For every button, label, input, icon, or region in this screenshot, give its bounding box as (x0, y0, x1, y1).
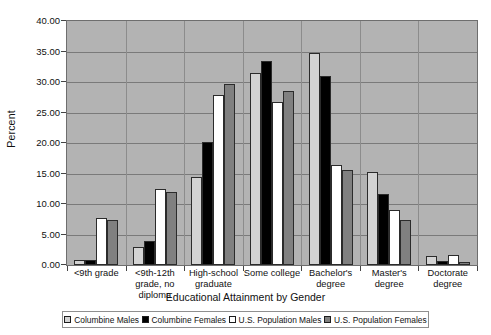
bar (309, 53, 320, 265)
bar (250, 73, 261, 265)
y-axis-tick-label: 25.00 (16, 107, 60, 118)
bar-group (184, 21, 243, 265)
y-axis-tick-mark (61, 234, 66, 235)
bar (426, 256, 437, 265)
legend-swatch-icon (229, 316, 236, 323)
bar-group (418, 21, 477, 265)
y-axis-tick-label: 40.00 (16, 15, 60, 26)
bar (261, 61, 272, 265)
bar (437, 261, 448, 265)
bar (133, 247, 144, 265)
y-axis-tick-mark (61, 142, 66, 143)
bar (272, 102, 283, 265)
y-axis-tick-mark (61, 203, 66, 204)
y-axis-tick-label: 30.00 (16, 76, 60, 87)
legend-item: Columbine Males (64, 315, 139, 325)
bar (378, 194, 389, 265)
legend: Columbine MalesColumbine FemalesU.S. Pop… (62, 311, 429, 328)
legend-label: Columbine Females (152, 315, 226, 325)
y-axis-tick-label: 15.00 (16, 168, 60, 179)
bar (166, 192, 177, 265)
y-axis-title: Percent (5, 94, 17, 164)
legend-swatch-icon (324, 316, 331, 323)
y-axis-tick-label: 10.00 (16, 198, 60, 209)
bar (96, 218, 107, 265)
legend-label: U.S. Population Males (239, 315, 322, 325)
y-axis-tick-label: 20.00 (16, 137, 60, 148)
x-axis-title: Educational Attainment by Gender (0, 291, 491, 303)
bar (283, 91, 294, 265)
legend-item: U.S. Population Females (324, 315, 427, 325)
bar (459, 262, 470, 265)
y-axis-tick-label: 5.00 (16, 229, 60, 240)
bar (320, 76, 331, 265)
bar (367, 172, 378, 265)
y-axis-tick-mark (61, 20, 66, 21)
y-axis-tick-mark (61, 173, 66, 174)
bar (155, 189, 166, 265)
y-axis-tick-label: 0.00 (16, 259, 60, 270)
bar (400, 220, 411, 265)
bar (74, 260, 85, 265)
legend-item: Columbine Females (142, 315, 226, 325)
legend-item: U.S. Population Males (229, 315, 322, 325)
x-axis-tick-mark (477, 266, 478, 271)
bar-group (243, 21, 302, 265)
y-axis-tick-label: 35.00 (16, 46, 60, 57)
bar (224, 84, 235, 265)
bar (191, 177, 202, 265)
bar (85, 260, 96, 265)
y-axis-tick-mark (61, 112, 66, 113)
bar (144, 241, 155, 265)
bar (202, 142, 213, 265)
legend-swatch-icon (64, 316, 71, 323)
bar (389, 210, 400, 265)
bar-group (126, 21, 185, 265)
bar (448, 255, 459, 265)
legend-swatch-icon (142, 316, 149, 323)
bar-groups (67, 21, 477, 265)
y-axis-tick-mark (61, 51, 66, 52)
legend-label: Columbine Males (74, 315, 139, 325)
bar (213, 95, 224, 265)
y-axis-tick-mark (61, 81, 66, 82)
bar-group (301, 21, 360, 265)
bar-group (67, 21, 126, 265)
legend-label: U.S. Population Females (334, 315, 427, 325)
bar (107, 220, 118, 265)
y-axis-tick-mark (61, 264, 66, 265)
bar-chart: Percent 40.0035.0030.0025.0020.0015.0010… (0, 0, 491, 335)
bar (331, 165, 342, 265)
bar-group (360, 21, 419, 265)
bar (342, 170, 353, 265)
